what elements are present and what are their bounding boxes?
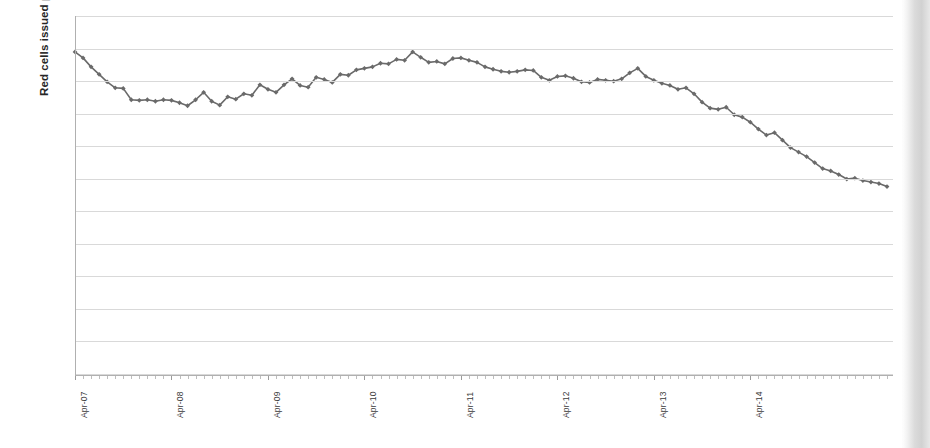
- data-point-marker: [137, 98, 142, 103]
- gridline: [75, 114, 893, 115]
- data-point-marker: [499, 69, 504, 74]
- data-point-marker: [378, 61, 383, 66]
- x-axis-tick-label: Apr-10: [368, 391, 378, 418]
- x-axis-tick-label: Apr-07: [79, 391, 89, 418]
- data-point-marker: [885, 184, 890, 189]
- gridline: [75, 16, 893, 17]
- gridline: [75, 244, 893, 245]
- gridline: [75, 341, 893, 342]
- data-point-marker: [362, 66, 367, 71]
- data-point-marker: [869, 180, 874, 185]
- data-point-marker: [507, 70, 512, 75]
- x-axis-labels: Apr-07Apr-08Apr-09Apr-10Apr-11Apr-12Apr-…: [0, 378, 930, 438]
- data-point-marker: [370, 64, 375, 69]
- data-point-marker: [169, 98, 174, 103]
- data-point-marker: [571, 76, 576, 81]
- y-axis-line: [75, 16, 76, 375]
- gridline: [75, 211, 893, 212]
- gridline: [75, 309, 893, 310]
- x-axis-tick-label: Apr-08: [175, 391, 185, 418]
- data-point-marker: [153, 99, 158, 104]
- y-axis-label: Red cells issued per month: [38, 0, 50, 96]
- data-point-marker: [563, 73, 568, 78]
- chart-figure: Red cells issued per month Apr-07Apr-08A…: [0, 0, 930, 448]
- plot-area: [75, 16, 893, 375]
- data-point-marker: [161, 97, 166, 102]
- data-point-marker: [434, 59, 439, 64]
- data-series-line: [75, 16, 893, 375]
- gridline: [75, 81, 893, 82]
- scanned-page-edge: [902, 0, 930, 448]
- x-axis-tick-label: Apr-09: [272, 391, 282, 418]
- data-point-marker: [177, 100, 182, 105]
- gridline: [75, 276, 893, 277]
- data-point-marker: [523, 67, 528, 72]
- gridline: [75, 146, 893, 147]
- data-point-marker: [145, 97, 150, 102]
- data-point-marker: [491, 67, 496, 72]
- data-point-marker: [459, 55, 464, 60]
- series-path: [75, 52, 887, 187]
- data-point-marker: [716, 107, 721, 112]
- gridline: [75, 49, 893, 50]
- data-point-marker: [877, 181, 882, 186]
- x-axis-tick-label: Apr-12: [561, 391, 571, 418]
- gridline: [75, 179, 893, 180]
- x-axis-tick-label: Apr-11: [465, 392, 475, 418]
- data-point-marker: [515, 69, 520, 74]
- x-axis-tick-label: Apr-13: [658, 391, 668, 418]
- data-point-marker: [467, 58, 472, 63]
- data-point-marker: [828, 169, 833, 174]
- x-axis-tick-label: Apr-14: [754, 391, 764, 418]
